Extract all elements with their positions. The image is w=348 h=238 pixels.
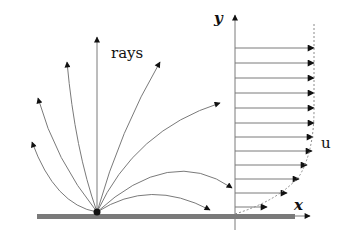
rays-group — [32, 37, 232, 212]
source-point — [94, 209, 101, 216]
velocity-arrows-group — [235, 48, 314, 207]
x-axis-label: x — [294, 198, 303, 213]
y-axis-label: y — [214, 11, 223, 26]
ray-5 — [97, 62, 160, 212]
boundary-layer-rays-diagram: rays y u x — [0, 0, 348, 238]
velocity-profile-curve — [235, 24, 314, 214]
ray-6 — [97, 103, 220, 212]
ray-8 — [97, 194, 210, 212]
ray-1 — [32, 142, 97, 212]
velocity-profile-label: u — [321, 136, 331, 151]
ray-2 — [38, 98, 97, 212]
ray-3 — [67, 62, 97, 212]
rays-label: rays — [111, 46, 143, 61]
